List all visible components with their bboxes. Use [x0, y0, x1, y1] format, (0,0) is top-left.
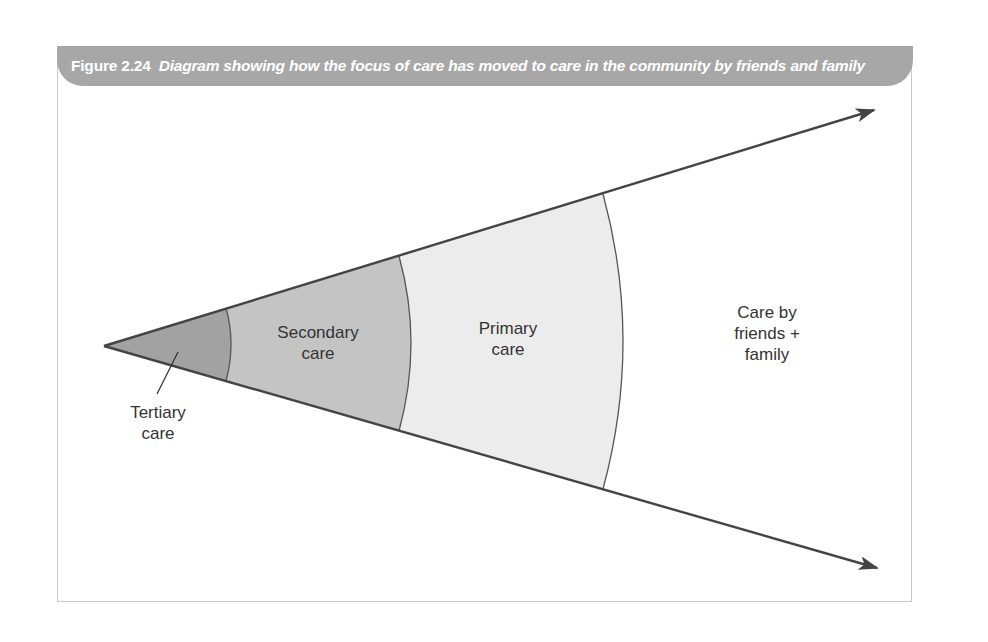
- friends-family-care-label: Care by friends + family: [712, 302, 822, 365]
- tertiary-care-region: [104, 308, 231, 381]
- tertiary-care-label: Tertiary care: [118, 402, 198, 444]
- secondary-care-label: Secondary care: [258, 322, 378, 364]
- primary-care-label: Primary care: [458, 318, 558, 360]
